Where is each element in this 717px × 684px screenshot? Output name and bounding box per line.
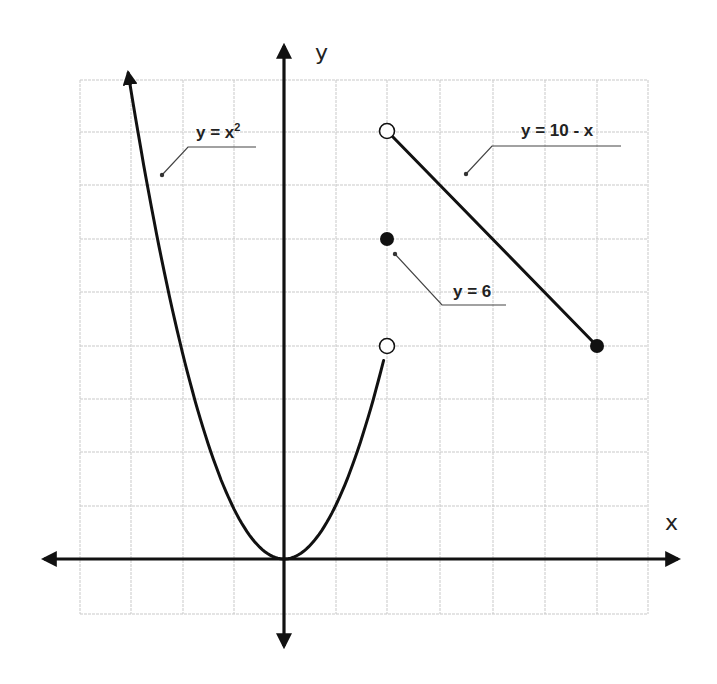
- grid: [80, 80, 648, 614]
- parabola-curve: [128, 73, 383, 559]
- y-axis-label: y: [315, 40, 328, 65]
- piecewise-function-graph: x y y = x2 y = 10 - x y = 6: [0, 0, 717, 684]
- annotation-point: y = 6: [393, 252, 506, 305]
- line-segment: [391, 135, 597, 346]
- annotation-parabola: y = x2: [160, 121, 256, 177]
- parabola-label-exponent: 2: [234, 121, 240, 133]
- open-circle-line-start: [380, 124, 395, 139]
- point-label: y = 6: [453, 282, 491, 301]
- open-circle-parabola-end: [380, 339, 395, 354]
- svg-text:y = x2: y = x2: [196, 121, 240, 142]
- x-axis-label: x: [665, 510, 678, 535]
- parabola-label: y = x: [196, 123, 235, 142]
- filled-point-line-end: [590, 339, 604, 353]
- filled-point-y6: [380, 232, 394, 246]
- line-label: y = 10 - x: [521, 121, 594, 140]
